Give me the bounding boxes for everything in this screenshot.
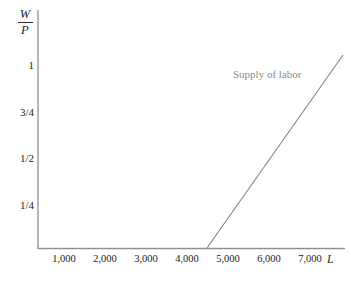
x-tick-7000: 7,000 [298, 253, 322, 264]
x-tick-6000: 6,000 [257, 253, 281, 264]
y-axis-title: W P [14, 8, 36, 37]
chart-canvas [0, 0, 351, 285]
x-tick-1000: 1,000 [52, 253, 76, 264]
x-tick-2000: 2,000 [93, 253, 117, 264]
x-axis-title: L [327, 253, 333, 265]
labor-supply-chart: W P 1 3/4 1/2 1/4 1,000 2,000 3,000 4,00… [0, 0, 351, 285]
y-axis-title-denominator: P [14, 23, 36, 37]
supply-of-labor-line [207, 55, 343, 248]
x-tick-4000: 4,000 [175, 253, 199, 264]
y-axis-title-numerator: W [14, 8, 36, 22]
x-tick-3000: 3,000 [134, 253, 158, 264]
x-tick-5000: 5,000 [216, 253, 240, 264]
supply-of-labor-label: Supply of labor [233, 68, 301, 80]
